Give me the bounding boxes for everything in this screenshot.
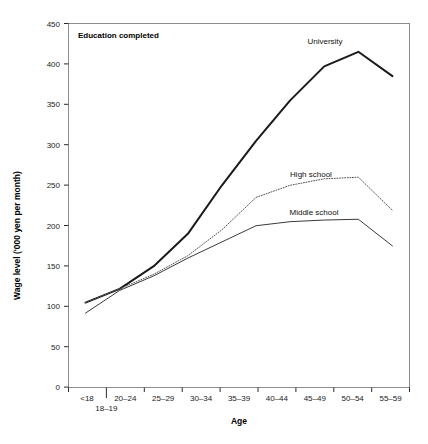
x-tick-40-44: 40–44: [266, 394, 289, 403]
y-tick-150: 150: [47, 262, 61, 271]
wage-by-age-line-chart: 450 400 350 300 250 200 150 100 50 0 Wag…: [0, 0, 428, 444]
x-tick-50-54: 50–54: [342, 394, 365, 403]
y-tick-300: 300: [47, 141, 61, 150]
y-axis-tick-labels: 450 400 350 300 250 200 150 100 50 0: [47, 20, 61, 393]
series-label-high-school: High school: [290, 170, 332, 179]
chart-figure: 450 400 350 300 250 200 150 100 50 0 Wag…: [0, 0, 428, 444]
x-tick-20-24: 20–24: [114, 394, 137, 403]
y-tick-450: 450: [47, 20, 61, 29]
x-tick-18-19: 18–19: [95, 404, 118, 413]
series-label-university: University: [307, 37, 342, 46]
series-label-middle-school: Middle school: [290, 208, 339, 217]
x-tick-under18: <18: [80, 394, 94, 403]
y-tick-200: 200: [47, 222, 61, 231]
series-line-university: [86, 52, 393, 303]
y-tick-0: 0: [56, 383, 61, 392]
plot-frame: [69, 24, 410, 388]
x-axis-tick-labels: <18 20–24 25–29 30–34 35–39 40–44 45–49 …: [80, 394, 402, 413]
x-tick-30-34: 30–34: [190, 394, 213, 403]
x-tick-35-39: 35–39: [228, 394, 251, 403]
x-axis-title: Age: [231, 416, 247, 426]
y-tick-100: 100: [47, 302, 61, 311]
series-line-high-school: [86, 177, 393, 302]
y-tick-350: 350: [47, 100, 61, 109]
education-completed-annotation: Education completed: [78, 31, 159, 40]
y-tick-400: 400: [47, 60, 61, 69]
x-tick-55-59: 55–59: [379, 394, 402, 403]
y-axis-title: Wage level ('000 yen per month): [12, 171, 22, 300]
x-tick-25-29: 25–29: [152, 394, 175, 403]
y-tick-50: 50: [51, 343, 60, 352]
x-tick-45-49: 45–49: [304, 394, 327, 403]
y-axis-ticks: [64, 24, 69, 388]
y-tick-250: 250: [47, 181, 61, 190]
caption-strip: [0, 428, 428, 444]
data-series-layer: [86, 52, 393, 313]
series-line-middle-school: [86, 219, 393, 313]
